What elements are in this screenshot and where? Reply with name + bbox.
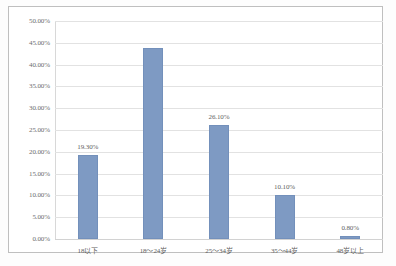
bar-value-label: 19.30% xyxy=(77,143,98,151)
x-axis-category-label: 18～24岁 xyxy=(140,245,167,255)
plot-area: 0.00%5.00%10.00%15.00%20.00%25.00%30.00%… xyxy=(55,21,383,239)
bar xyxy=(275,195,295,239)
bar xyxy=(209,125,229,239)
y-axis-tick-label: 10.00% xyxy=(29,191,50,199)
bar xyxy=(340,236,360,239)
bar xyxy=(143,48,163,239)
gridline xyxy=(55,21,383,22)
y-axis-tick-label: 35.00% xyxy=(29,82,50,90)
gridline xyxy=(55,108,383,109)
bar-value-label: 0.80% xyxy=(341,224,359,232)
chart-frame: 0.00%5.00%10.00%15.00%20.00%25.00%30.00%… xyxy=(8,6,383,253)
bar-value-label: 10.10% xyxy=(274,183,295,191)
x-axis-category-label: 25～34岁 xyxy=(205,245,232,255)
y-axis-tick-label: 15.00% xyxy=(29,170,50,178)
y-axis-tick-label: 50.00% xyxy=(29,17,50,25)
bar-chart-figure: 0.00%5.00%10.00%15.00%20.00%25.00%30.00%… xyxy=(0,0,396,266)
y-axis-tick-label: 5.00% xyxy=(32,213,50,221)
x-axis-category-label: 48岁以上 xyxy=(336,245,364,255)
gridline xyxy=(55,65,383,66)
y-axis-tick-label: 30.00% xyxy=(29,104,50,112)
bar xyxy=(78,155,98,239)
y-axis-tick-label: 25.00% xyxy=(29,126,50,134)
x-axis-category-label: 35～44岁 xyxy=(271,245,298,255)
y-axis-tick-label: 0.00% xyxy=(32,235,50,243)
y-axis-tick-label: 45.00% xyxy=(29,39,50,47)
gridline xyxy=(55,239,383,240)
x-axis-category-label: 18以下 xyxy=(77,245,98,255)
y-axis-tick-label: 20.00% xyxy=(29,148,50,156)
gridline xyxy=(55,86,383,87)
bar-value-label: 26.10% xyxy=(209,113,230,121)
y-axis-tick-label: 40.00% xyxy=(29,61,50,69)
gridline xyxy=(55,43,383,44)
